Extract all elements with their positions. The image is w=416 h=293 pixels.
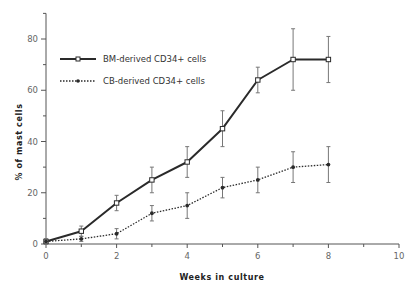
y-tick-label: 20 — [27, 188, 38, 198]
open-square-marker-icon — [76, 57, 80, 61]
filled-marker-icon — [185, 204, 189, 208]
filled-marker-icon — [291, 165, 295, 169]
x-axis-title: Weeks in culture — [179, 273, 264, 282]
legend-label-cb: CB-derived CD34+ cells — [103, 76, 205, 86]
open-square-marker-icon — [256, 78, 260, 82]
x-tick-label: 8 — [326, 251, 331, 261]
x-tick-label: 10 — [394, 251, 405, 261]
x-tick-label: 2 — [114, 251, 119, 261]
chart: 0246810020406080 BM-derived CD34+ cells … — [0, 0, 416, 293]
filled-marker-icon — [256, 178, 260, 182]
x-tick-label: 4 — [184, 251, 189, 261]
legend-label-bm: BM-derived CD34+ cells — [103, 54, 207, 64]
y-tick-label: 0 — [33, 239, 38, 249]
y-tick-label: 60 — [27, 85, 38, 95]
open-square-marker-icon — [150, 178, 154, 182]
open-square-marker-icon — [291, 57, 295, 61]
axes: 0246810020406080 — [27, 13, 404, 261]
filled-marker-icon — [115, 232, 119, 236]
y-tick-label: 80 — [27, 34, 38, 44]
legend-item-cb: CB-derived CD34+ cells — [60, 76, 205, 86]
x-tick-label: 0 — [43, 251, 48, 261]
filled-marker-icon — [76, 79, 80, 83]
filled-marker-icon — [221, 186, 225, 190]
filled-marker-icon — [327, 163, 331, 167]
filled-marker-icon — [44, 240, 48, 244]
legend: BM-derived CD34+ cells CB-derived CD34+ … — [60, 54, 207, 86]
open-square-marker-icon — [114, 201, 118, 205]
open-square-marker-icon — [326, 57, 330, 61]
y-tick-label: 40 — [27, 137, 38, 147]
open-square-marker-icon — [220, 126, 224, 130]
y-axis-title: % of mast cells — [15, 103, 24, 180]
open-square-marker-icon — [185, 160, 189, 164]
open-square-marker-icon — [79, 229, 83, 233]
filled-marker-icon — [79, 237, 83, 241]
filled-marker-icon — [150, 211, 154, 215]
x-tick-label: 6 — [255, 251, 260, 261]
legend-item-bm: BM-derived CD34+ cells — [60, 54, 207, 64]
